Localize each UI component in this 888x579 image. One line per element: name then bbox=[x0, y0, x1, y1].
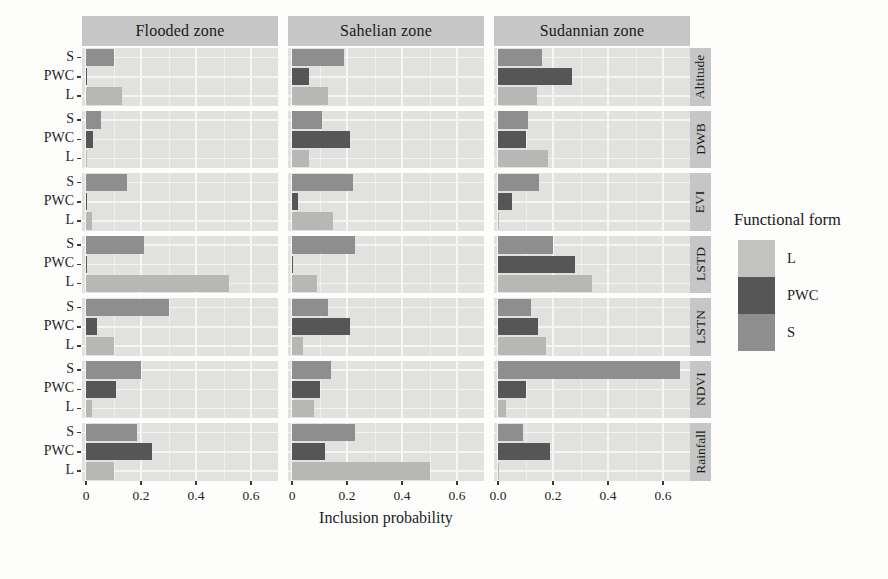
facet-panel bbox=[494, 236, 690, 294]
bar-pwc bbox=[498, 318, 538, 335]
bar-pwc bbox=[498, 381, 526, 398]
legend-swatch-l bbox=[738, 240, 775, 277]
bar-s bbox=[86, 361, 141, 378]
y-tick-mark bbox=[77, 264, 81, 266]
bar-l bbox=[292, 150, 309, 167]
bar-s bbox=[292, 111, 322, 128]
facet-panel bbox=[288, 361, 484, 419]
gridline-horizontal bbox=[494, 201, 690, 203]
bar-s bbox=[292, 49, 344, 66]
gridline-horizontal bbox=[494, 220, 690, 222]
gridline-horizontal bbox=[288, 201, 484, 203]
gridline-horizontal bbox=[288, 264, 484, 266]
x-tick-mark bbox=[85, 481, 87, 485]
bar-s bbox=[498, 361, 680, 378]
bar-pwc bbox=[292, 381, 320, 398]
bar-s bbox=[498, 174, 539, 191]
y-tick-mark bbox=[77, 158, 81, 160]
facet-row-label: NDVI bbox=[693, 372, 709, 406]
y-tick-mark bbox=[77, 244, 81, 246]
x-tick-label: 0.2 bbox=[339, 488, 356, 504]
x-tick-label: 0.4 bbox=[600, 488, 617, 504]
bar-l bbox=[86, 400, 92, 417]
facet-row-label: LSTD bbox=[693, 247, 709, 281]
gridline-horizontal bbox=[288, 76, 484, 78]
x-tick-label: 0.4 bbox=[394, 488, 411, 504]
bar-l bbox=[292, 87, 328, 104]
x-tick-mark bbox=[456, 481, 458, 485]
bar-s bbox=[498, 236, 553, 253]
gridline-horizontal bbox=[288, 158, 484, 160]
x-tick-label: 0.0 bbox=[490, 488, 507, 504]
facet-panel bbox=[82, 423, 278, 481]
facet-panel bbox=[82, 111, 278, 169]
legend-keys: LPWCS bbox=[738, 240, 841, 351]
facet-panel bbox=[288, 48, 484, 106]
bar-s bbox=[292, 424, 355, 441]
y-tick-mark bbox=[77, 307, 81, 309]
gridline-horizontal bbox=[288, 408, 484, 410]
bar-l bbox=[498, 337, 546, 354]
facet-row-strip-lstn: LSTN bbox=[690, 298, 711, 356]
facet-row-label: LSTN bbox=[693, 310, 709, 344]
bar-pwc bbox=[86, 193, 87, 210]
facet-row-strip-altitude: Altitude bbox=[690, 48, 711, 106]
y-tick-mark bbox=[77, 451, 81, 453]
legend-entry-l: L bbox=[738, 240, 841, 277]
x-tick-mark bbox=[346, 481, 348, 485]
bar-pwc bbox=[292, 443, 325, 460]
x-tick-label: 0.2 bbox=[133, 488, 150, 504]
bar-s bbox=[498, 49, 542, 66]
bar-l bbox=[498, 462, 499, 479]
y-tick-mark bbox=[77, 369, 81, 371]
y-tick-label-l: L bbox=[0, 337, 74, 353]
bar-pwc bbox=[292, 318, 350, 335]
bar-l bbox=[498, 87, 537, 104]
bar-s bbox=[292, 299, 328, 316]
facet-row-strip-dwb: DWB bbox=[690, 111, 711, 169]
legend-label: L bbox=[787, 250, 796, 267]
y-tick-label-s: S bbox=[0, 111, 74, 127]
bar-s bbox=[292, 236, 355, 253]
y-tick-label-l: L bbox=[0, 87, 74, 103]
y-tick-mark bbox=[77, 95, 81, 97]
y-tick-label-pwc: PWC bbox=[0, 130, 74, 146]
y-tick-label-l: L bbox=[0, 462, 74, 478]
legend-entry-pwc: PWC bbox=[738, 277, 841, 314]
facet-panel bbox=[82, 236, 278, 294]
bar-s bbox=[292, 174, 353, 191]
bar-s bbox=[86, 111, 101, 128]
x-tick-label: 0.6 bbox=[243, 488, 260, 504]
facet-row-label: Rainfall bbox=[693, 430, 709, 474]
legend-swatch-s bbox=[738, 314, 775, 351]
bar-pwc bbox=[86, 381, 116, 398]
y-tick-label-l: L bbox=[0, 274, 74, 290]
facet-row-strip-rainfall: Rainfall bbox=[690, 423, 711, 481]
facet-panel bbox=[288, 173, 484, 231]
gridline-horizontal bbox=[82, 201, 278, 203]
bar-pwc bbox=[498, 193, 512, 210]
facet-panel bbox=[494, 423, 690, 481]
bar-l bbox=[498, 275, 592, 292]
y-tick-label-s: S bbox=[0, 361, 74, 377]
y-tick-label-s: S bbox=[0, 236, 74, 252]
bar-pwc bbox=[498, 443, 550, 460]
bar-s bbox=[292, 361, 331, 378]
bar-l bbox=[292, 462, 430, 479]
y-tick-label-pwc: PWC bbox=[0, 193, 74, 209]
gridline-horizontal bbox=[82, 264, 278, 266]
bar-l bbox=[86, 337, 114, 354]
bar-l bbox=[292, 337, 303, 354]
legend: Functional form LPWCS bbox=[730, 210, 841, 351]
bar-l bbox=[86, 150, 87, 167]
x-tick-mark bbox=[497, 481, 499, 485]
bar-l bbox=[86, 275, 229, 292]
x-tick-mark bbox=[607, 481, 609, 485]
bar-s bbox=[498, 424, 523, 441]
y-tick-label-pwc: PWC bbox=[0, 443, 74, 459]
facet-panel bbox=[494, 298, 690, 356]
facet-panel bbox=[288, 423, 484, 481]
y-tick-mark bbox=[77, 283, 81, 285]
y-tick-mark bbox=[77, 345, 81, 347]
bar-pwc bbox=[86, 443, 152, 460]
